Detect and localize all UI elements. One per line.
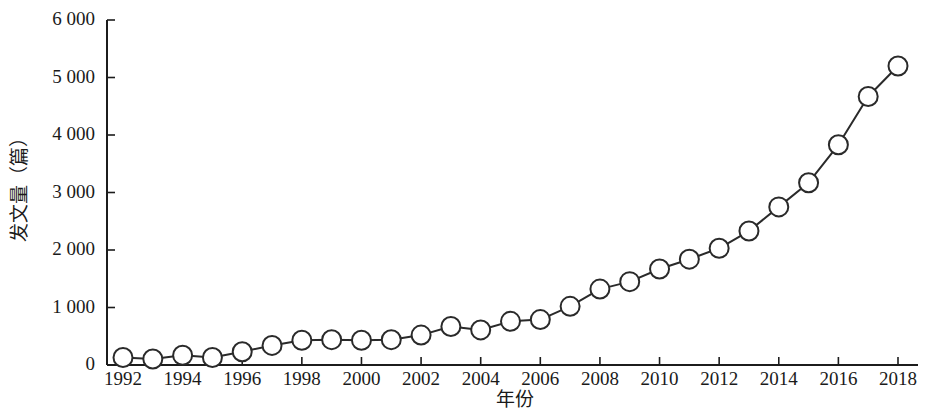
data-point-marker [233,342,252,361]
data-point-marker [531,310,550,329]
y-tick-label: 2 000 [52,238,95,259]
x-tick-label: 2008 [581,368,619,389]
data-point-marker [739,222,758,241]
data-point-markers [114,57,908,369]
data-point-marker [829,135,848,154]
x-tick-label: 2004 [462,368,501,389]
data-point-marker [143,349,162,368]
data-point-marker [769,197,788,216]
data-point-marker [799,173,818,192]
data-point-marker [412,326,431,345]
x-tick-label: 2002 [402,368,440,389]
data-point-marker [859,87,878,106]
x-tick-label: 2012 [700,368,738,389]
data-point-marker [114,348,133,367]
data-point-marker [680,250,699,269]
x-tick-label: 1994 [164,368,203,389]
data-point-marker [203,348,222,367]
data-point-marker [441,317,460,336]
x-tick-label: 2018 [879,368,917,389]
data-point-marker [352,331,371,350]
data-point-marker [710,239,729,258]
data-point-marker [590,280,609,299]
x-tick-label: 1998 [283,368,321,389]
y-axis-title-text: 发文量（篇） [9,128,30,242]
data-point-marker [620,272,639,291]
line-chart: 发文量（篇） 01 0002 0003 0004 0005 0006 000 1… [0,0,926,418]
y-tick-label: 0 [86,353,96,374]
data-point-marker [173,346,192,365]
x-tick-label: 2006 [521,368,559,389]
data-point-marker [292,331,311,350]
y-tick-label: 6 000 [52,8,95,29]
data-point-marker [889,57,908,76]
data-point-marker [650,259,669,278]
x-axis-title-text: 年份 [496,389,534,410]
data-point-marker [561,297,580,316]
x-axis-ticks: 1992199419961998200020022004200620082010… [104,357,917,389]
data-point-marker [471,320,490,339]
y-axis-ticks: 01 0002 0003 0004 0005 0006 000 [52,8,115,374]
x-tick-label: 2010 [641,368,679,389]
data-point-marker [263,336,282,355]
x-tick-label: 2016 [819,368,857,389]
y-tick-label: 3 000 [52,181,95,202]
x-tick-label: 2000 [342,368,380,389]
x-tick-label: 2014 [760,368,799,389]
data-point-marker [382,330,401,349]
x-tick-label: 1996 [223,368,261,389]
y-tick-label: 4 000 [52,123,95,144]
y-axis-title: 发文量（篇） [9,128,30,242]
y-tick-label: 5 000 [52,66,95,87]
data-point-marker [501,312,520,331]
data-point-marker [322,330,341,349]
chart-page: 发文量（篇） 01 0002 0003 0004 0005 0006 000 1… [0,0,926,418]
x-tick-label: 1992 [104,368,142,389]
y-tick-label: 1 000 [52,296,95,317]
